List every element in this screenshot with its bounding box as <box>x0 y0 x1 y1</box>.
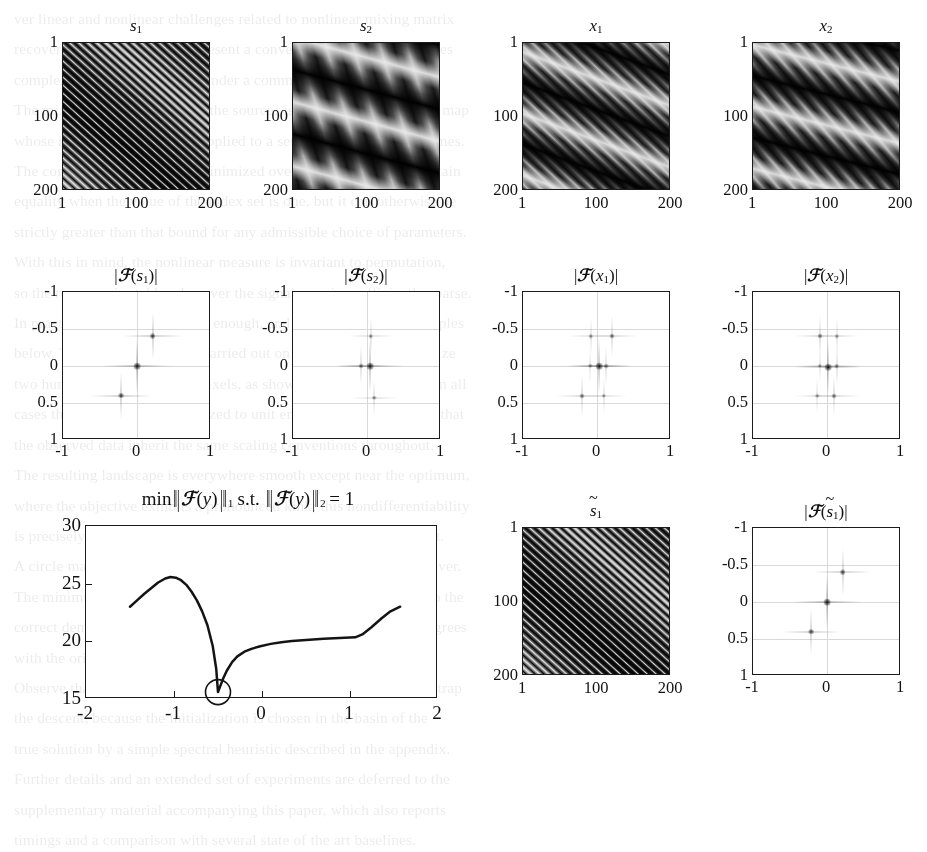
gridline-h-0 <box>293 329 439 330</box>
ytick-x1-2: 200 <box>482 180 518 200</box>
ytick-F_x1-1: -0.5 <box>476 318 518 338</box>
gridline-h-0 <box>523 329 669 330</box>
fourier-panel-F_s1: |ℱ(s1)|-101-1-0.500.51 <box>16 265 230 457</box>
gridline-h-0 <box>753 565 899 566</box>
grain-layer <box>523 528 669 674</box>
fourier-panel-F_x2: |ℱ(x2)|-101-1-0.500.51 <box>706 265 920 457</box>
ytick-F_x1-0: -1 <box>476 281 518 301</box>
xtick-F_s1tilde-2: 1 <box>896 677 904 697</box>
panel-title-F_s1tilde: |ℱ(~s1)| <box>752 501 900 522</box>
xtick-F_x2-2: 1 <box>896 441 904 461</box>
peak-core <box>372 396 377 401</box>
gridline-h-2 <box>293 403 439 404</box>
gridline-h-0 <box>753 329 899 330</box>
ytick-F_s2-1: -0.5 <box>246 318 288 338</box>
xtick-s1tilde-0: 1 <box>518 678 526 698</box>
ytick-F_s2-2: 0 <box>246 355 288 375</box>
chart-xtick-1: -1 <box>165 702 181 724</box>
peak-core <box>119 393 125 399</box>
image-panel-s1: s111002001100200 <box>22 16 230 208</box>
peak-core <box>588 364 592 368</box>
ytick-s2-0: 1 <box>252 32 288 52</box>
ytick-F_s1-3: 0.5 <box>16 392 58 412</box>
xtick-s1-2: 200 <box>198 193 223 213</box>
xtick-F_x2-1: 0 <box>822 441 830 461</box>
ytick-s1tilde-2: 200 <box>482 665 518 685</box>
ytick-F_s1tilde-4: 1 <box>706 665 748 685</box>
ytick-s1-1: 100 <box>22 106 58 126</box>
image-box-x2 <box>752 42 900 190</box>
grain-layer <box>293 43 439 189</box>
ytick-F_x2-2: 0 <box>706 355 748 375</box>
gridline-h-2 <box>753 403 899 404</box>
gridline-h-2 <box>63 403 209 404</box>
xtick-x2-2: 200 <box>888 193 913 213</box>
grain-layer <box>63 43 209 189</box>
peak-core <box>134 363 141 370</box>
chart-xtick-3: 1 <box>344 702 354 724</box>
fourier-panel-F_s1tilde: |ℱ(~s1)|-101-1-0.500.51 <box>706 501 920 693</box>
peak-core <box>840 570 846 576</box>
image-box-s1 <box>62 42 210 190</box>
ytick-F_s2-4: 1 <box>246 429 288 449</box>
gridline-h-2 <box>753 639 899 640</box>
grain-layer <box>753 43 899 189</box>
peak-core <box>815 393 819 397</box>
peak-core <box>824 599 831 606</box>
image-panel-s2: s211002001100200 <box>252 16 460 208</box>
objective-curve-path <box>130 577 400 692</box>
peak-core <box>150 333 156 339</box>
image-panel-s1tilde: ~s111002001100200 <box>482 501 690 693</box>
ytick-F_s1tilde-3: 0.5 <box>706 628 748 648</box>
fourier-box-F_x2 <box>752 291 900 439</box>
ytick-F_x2-0: -1 <box>706 281 748 301</box>
xtick-s1tilde-2: 200 <box>658 678 683 698</box>
image-box-s1tilde <box>522 527 670 675</box>
image-box-s2 <box>292 42 440 190</box>
grain-layer <box>523 43 669 189</box>
panel-title-F_s1: |ℱ(s1)| <box>62 265 210 286</box>
ytick-F_x1-2: 0 <box>476 355 518 375</box>
ytick-F_s1-2: 0 <box>16 355 58 375</box>
xtick-x2-0: 1 <box>748 193 756 213</box>
ytick-x2-2: 200 <box>712 180 748 200</box>
fourier-panel-F_s2: |ℱ(s2)|-101-1-0.500.51 <box>246 265 460 457</box>
panel-title-s2: s2 <box>292 16 440 36</box>
peak-core <box>809 629 815 635</box>
image-surface-s2 <box>293 43 439 189</box>
fourier-box-F_s1tilde <box>752 527 900 675</box>
ytick-s1-0: 1 <box>22 32 58 52</box>
chart-title: min‖|ℱ(y)|‖1s.t.‖|ℱ(y)|‖2= 1 <box>37 485 459 513</box>
peak-core <box>368 334 373 339</box>
xtick-s2-2: 200 <box>428 193 453 213</box>
image-surface-x1 <box>523 43 669 189</box>
fourier-panel-F_x1: |ℱ(x1)|-101-1-0.500.51 <box>476 265 690 457</box>
ytick-F_s1-1: -0.5 <box>16 318 58 338</box>
gridline-h-2 <box>523 403 669 404</box>
xtick-F_s1-1: 0 <box>132 441 140 461</box>
xtick-s1-0: 1 <box>58 193 66 213</box>
fourier-box-F_s2 <box>292 291 440 439</box>
ytick-s2-1: 100 <box>252 106 288 126</box>
ytick-F_s1tilde-2: 0 <box>706 591 748 611</box>
xtick-x1-1: 100 <box>584 193 609 213</box>
peak-core <box>359 364 364 369</box>
xtick-x2-1: 100 <box>814 193 839 213</box>
chart-ytick-1: 20 <box>37 629 81 651</box>
xtick-s2-0: 1 <box>288 193 296 213</box>
ytick-x1-0: 1 <box>482 32 518 52</box>
panel-title-s1: s1 <box>62 16 210 36</box>
fourier-box-F_x1 <box>522 291 670 439</box>
objective-curve-svg <box>86 526 438 699</box>
ytick-F_x1-3: 0.5 <box>476 392 518 412</box>
ytick-F_x2-1: -0.5 <box>706 318 748 338</box>
xtick-F_s2-1: 0 <box>362 441 370 461</box>
panel-title-x2: x2 <box>752 16 900 36</box>
chart-xtick-4: 2 <box>432 702 442 724</box>
panel-title-F_x2: |ℱ(x2)| <box>752 265 900 286</box>
ytick-F_s1-0: -1 <box>16 281 58 301</box>
xtick-s1tilde-1: 100 <box>584 678 609 698</box>
ytick-s1tilde-0: 1 <box>482 517 518 537</box>
ytick-s2-2: 200 <box>252 180 288 200</box>
